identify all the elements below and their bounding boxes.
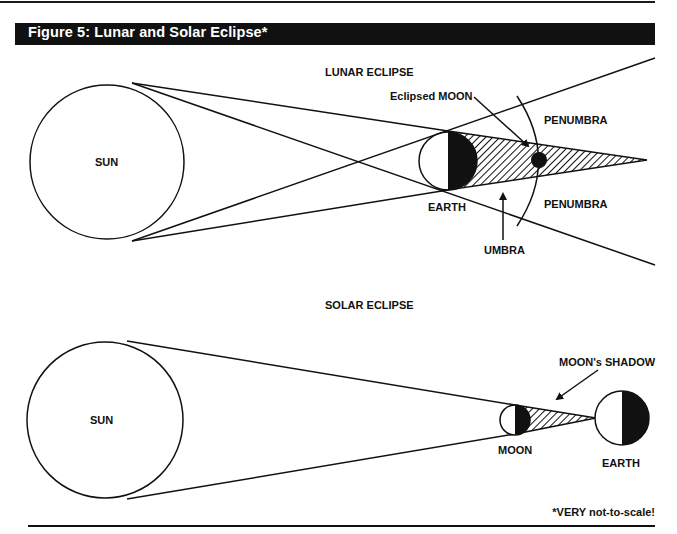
umbra-cone [448,131,647,190]
lunar-earth-label: EARTH [428,201,466,213]
solar-moon-label: MOON [498,444,532,456]
bottom-rule [28,525,655,527]
outer-tangent-bottom [132,190,448,241]
solar-moon [500,405,530,435]
solar-earth-label: EARTH [602,457,640,469]
solar-tangent-top [127,341,515,405]
penumbra-line-lower [132,83,655,265]
lunar-eclipse-section: LUNAR ECLIPSE SUN EARTH Eclipsed MOON PE… [30,58,655,265]
umbra-label: UMBRA [484,244,525,256]
lunar-sun-label: SUN [95,156,118,168]
solar-eclipse-section: SOLAR ECLIPSE SUN MOON EARTH MOON's SHAD… [27,299,656,499]
solar-tangent-bottom [127,434,515,499]
solar-sun-label: SUN [90,414,113,426]
lunar-earth [419,132,477,190]
penumbra-top-label: PENUMBRA [544,114,608,126]
solar-earth [595,391,649,445]
eclipsed-moon-label: Eclipsed MOON [390,90,473,102]
moons-shadow-label: MOON's SHADOW [559,356,656,368]
penumbra-bottom-label: PENUMBRA [544,198,608,210]
eclipse-diagram: LUNAR ECLIPSE SUN EARTH Eclipsed MOON PE… [0,0,677,534]
solar-eclipse-heading: SOLAR ECLIPSE [325,299,414,311]
lunar-eclipse-heading: LUNAR ECLIPSE [325,66,414,78]
moons-shadow-arrow-icon [557,370,598,399]
eclipsed-moon [531,152,547,168]
footnote: *VERY not-to-scale! [552,506,655,518]
